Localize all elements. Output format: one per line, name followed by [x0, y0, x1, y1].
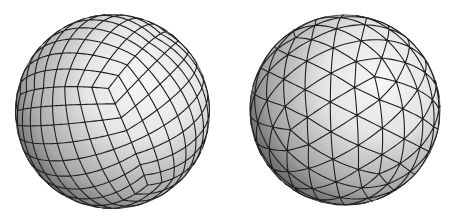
figure-canvas — [0, 0, 455, 219]
tri-mesh-sphere — [250, 15, 440, 205]
quad-mesh-sphere — [16, 15, 210, 209]
sphere-mesh-figure: Quadrilateral cube-sphere mesh Triangula… — [0, 0, 455, 219]
tri-sphere-body — [250, 15, 440, 205]
